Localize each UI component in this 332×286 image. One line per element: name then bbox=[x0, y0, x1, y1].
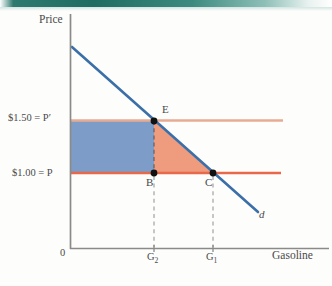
x-tick-g2-sub: 2 bbox=[155, 256, 159, 265]
point-label-c: C bbox=[205, 177, 212, 188]
y-tick-label-p-prime: $1.50 = P′ bbox=[8, 113, 51, 124]
y-tick-label-p: $1.00 = P bbox=[12, 168, 53, 179]
x-tick-g2-main: G bbox=[147, 251, 155, 262]
origin-label: 0 bbox=[60, 248, 65, 259]
point-label-e: E bbox=[162, 104, 169, 115]
x-tick-g1-sub: 1 bbox=[214, 256, 218, 265]
x-tick-label-g1: G1 bbox=[206, 252, 217, 265]
demand-curve-label: d bbox=[259, 209, 265, 220]
y-axis-label: Price bbox=[39, 14, 63, 26]
economics-diagram-figure: Price Gasoline 0 $1.50 = P′ $1.00 = P E … bbox=[0, 0, 332, 286]
consumer-transfer-rectangle bbox=[71, 121, 154, 173]
point-label-b: B bbox=[146, 177, 153, 188]
x-tick-g1-main: G bbox=[206, 251, 214, 262]
x-tick-label-g2: G2 bbox=[147, 252, 158, 265]
x-axis-label: Gasoline bbox=[272, 250, 313, 262]
plot-area bbox=[0, 0, 332, 286]
point-e-marker bbox=[151, 118, 158, 125]
